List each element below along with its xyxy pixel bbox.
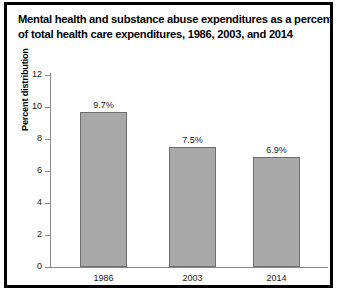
y-tick-2: 2 [45, 235, 50, 236]
bar-2014[interactable]: 6.9% [253, 157, 300, 267]
y-tick-label-2: 2 [37, 229, 42, 239]
bar-value-2003: 7.5% [182, 135, 203, 145]
bar-1986[interactable]: 9.7% [80, 112, 127, 267]
x-tick-label-1986: 1986 [80, 273, 127, 283]
y-axis-title: Percent distribution [20, 48, 30, 131]
bar-value-2014: 6.9% [266, 145, 287, 155]
y-tick-8: 8 [45, 139, 50, 140]
x-axis-line [50, 267, 328, 268]
y-tick-label-8: 8 [37, 133, 42, 143]
plot-area: Percent distribution 0 2 4 6 8 10 12 [7, 5, 336, 291]
bar-2003[interactable]: 7.5% [169, 147, 216, 267]
y-tick-label-6: 6 [37, 165, 42, 175]
figure-root: Mental health and substance abuse expend… [0, 0, 337, 291]
y-tick-4: 4 [45, 203, 50, 204]
y-axis-line [50, 73, 51, 268]
y-tick-label-4: 4 [37, 197, 42, 207]
bar-value-1986: 9.7% [93, 100, 114, 110]
y-tick-label-0: 0 [37, 261, 42, 271]
x-tick-label-2014: 2014 [253, 273, 300, 283]
y-tick-6: 6 [45, 171, 50, 172]
y-tick-0: 0 [45, 267, 50, 268]
y-tick-label-12: 12 [32, 69, 42, 79]
x-tick-label-2003: 2003 [169, 273, 216, 283]
y-tick-12: 12 [45, 75, 50, 76]
y-tick-10: 10 [45, 107, 50, 108]
figure-frame: Mental health and substance abuse expend… [4, 2, 333, 288]
y-tick-label-10: 10 [32, 101, 42, 111]
